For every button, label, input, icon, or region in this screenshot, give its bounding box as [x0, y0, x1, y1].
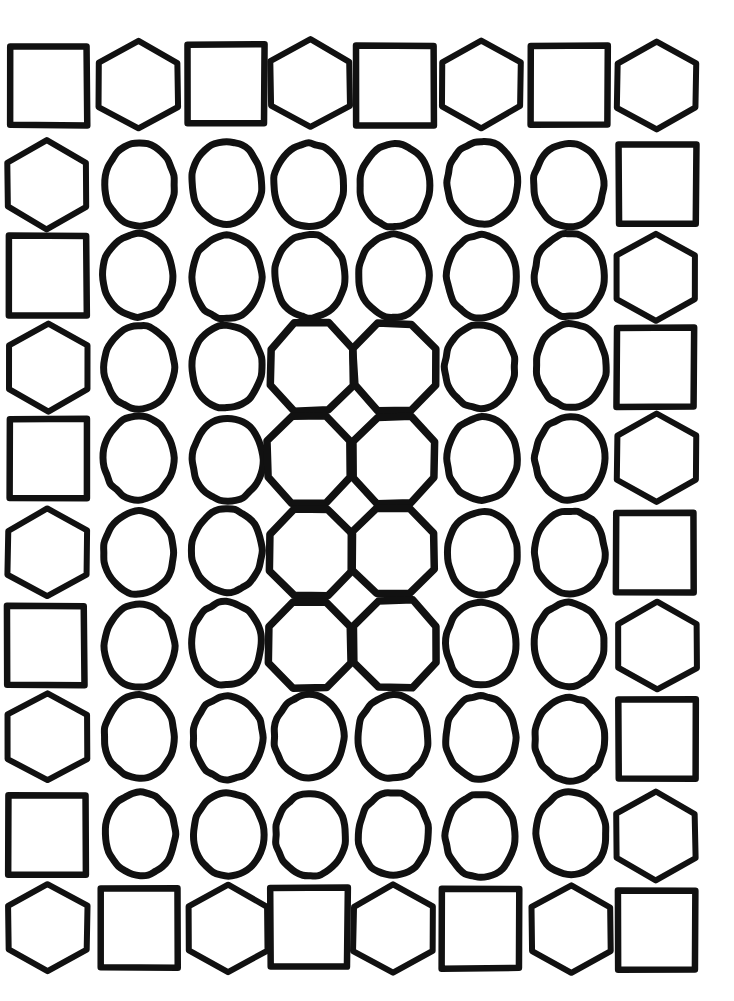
- square-outline: [9, 235, 87, 315]
- octagon-outline: [270, 323, 353, 412]
- circle-shape: [345, 134, 443, 234]
- hexagon-outline: [617, 42, 696, 130]
- hexagon-outline: [8, 884, 87, 971]
- shape-row: [0, 502, 734, 602]
- circle-shape: [90, 688, 188, 788]
- square-outline: [101, 888, 178, 967]
- octagon-shape: [345, 316, 443, 416]
- octagon-outline: [353, 323, 436, 411]
- circle-shape: [521, 595, 619, 695]
- hexagon-shape: [0, 688, 96, 788]
- square-shape: [0, 226, 96, 326]
- square-outline: [356, 46, 434, 126]
- octagon-outline: [267, 416, 350, 504]
- shape-row: [0, 226, 734, 326]
- hexagon-outline: [9, 324, 87, 412]
- square-shape: [432, 879, 530, 979]
- circle-outline: [358, 793, 428, 875]
- hexagon-outline: [616, 792, 695, 881]
- circle-outline: [445, 795, 515, 878]
- hexagon-outline: [531, 885, 610, 972]
- circle-outline: [192, 601, 262, 685]
- shape-row: [0, 785, 734, 885]
- octagon-shape: [345, 595, 443, 695]
- octagon-shape: [345, 502, 443, 602]
- circle-shape: [90, 785, 188, 885]
- circle-shape: [345, 785, 443, 885]
- circle-shape: [345, 688, 443, 788]
- square-shape: [0, 35, 96, 135]
- square-outline: [618, 891, 695, 970]
- circle-outline: [534, 234, 604, 317]
- circle-outline: [192, 325, 262, 408]
- circle-shape: [432, 785, 530, 885]
- circle-outline: [192, 235, 262, 319]
- octagon-shape: [345, 409, 443, 509]
- circle-outline: [191, 509, 262, 593]
- circle-shape: [521, 134, 619, 234]
- circle-shape: [432, 595, 530, 695]
- hexagon-outline: [99, 41, 179, 128]
- hexagon-outline: [353, 884, 433, 972]
- hexagon-shape: [432, 35, 530, 135]
- circle-shape: [432, 502, 530, 602]
- circle-outline: [105, 143, 175, 226]
- square-outline: [618, 699, 696, 778]
- circle-shape: [432, 316, 530, 416]
- hexagon-outline: [189, 885, 268, 972]
- circle-shape: [90, 595, 188, 695]
- square-shape: [0, 595, 96, 695]
- circle-outline: [536, 324, 606, 408]
- square-shape: [345, 35, 443, 135]
- hexagon-shape: [345, 879, 443, 979]
- circle-outline: [446, 602, 516, 685]
- square-outline: [616, 513, 694, 593]
- square-shape: [607, 879, 705, 979]
- circle-shape: [432, 134, 530, 234]
- square-outline: [442, 889, 520, 969]
- hexagon-outline: [618, 602, 697, 690]
- circle-outline: [276, 794, 346, 876]
- circle-outline: [444, 325, 515, 409]
- shape-row: [0, 879, 734, 979]
- hexagon-shape: [607, 409, 705, 509]
- circle-outline: [105, 792, 175, 876]
- circle-outline: [446, 234, 516, 318]
- square-outline: [10, 46, 87, 125]
- circle-outline: [104, 326, 175, 410]
- hexagon-outline: [8, 693, 88, 780]
- circle-outline: [447, 512, 517, 596]
- circle-shape: [521, 688, 619, 788]
- circle-outline: [535, 697, 605, 781]
- circle-outline: [536, 792, 606, 875]
- circle-shape: [521, 316, 619, 416]
- circle-shape: [90, 134, 188, 234]
- hexagon-shape: [0, 134, 96, 234]
- square-outline: [270, 888, 348, 967]
- square-shape: [607, 316, 705, 416]
- square-outline: [10, 419, 87, 499]
- circle-outline: [192, 142, 262, 225]
- shape-row: [0, 316, 734, 416]
- circle-shape: [90, 409, 188, 509]
- square-outline: [7, 606, 85, 686]
- circle-shape: [432, 409, 530, 509]
- circle-shape: [521, 409, 619, 509]
- circle-outline: [104, 694, 174, 778]
- circle-outline: [534, 511, 605, 594]
- circle-outline: [446, 695, 516, 779]
- square-outline: [531, 46, 608, 125]
- circle-outline: [104, 604, 175, 687]
- square-shape: [607, 502, 705, 602]
- circle-outline: [103, 233, 173, 317]
- hexagon-shape: [607, 785, 705, 885]
- hexagon-shape: [0, 879, 96, 979]
- hexagon-shape: [90, 35, 188, 135]
- hexagon-outline: [617, 414, 696, 502]
- shape-grid-canvas: [0, 0, 734, 1001]
- circle-outline: [104, 511, 174, 595]
- hexagon-shape: [607, 226, 705, 326]
- square-shape: [521, 35, 619, 135]
- circle-outline: [274, 143, 344, 227]
- square-outline: [616, 327, 694, 407]
